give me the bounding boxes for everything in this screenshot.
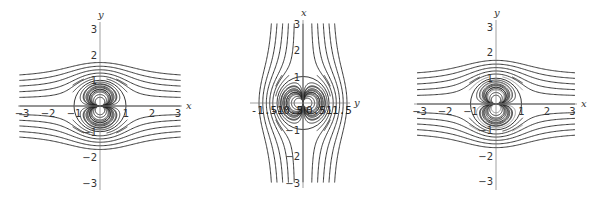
x-tick-label: 1 bbox=[123, 108, 129, 119]
y-tick-label: 1 bbox=[91, 75, 97, 86]
y-tick-label: −1 bbox=[82, 127, 97, 138]
x-tick-label: −1 bbox=[67, 108, 82, 119]
x-tick-label: 2 bbox=[544, 106, 550, 117]
streamline-plots: xy−3−2−1123321−1−2−3 yx-1.5-1-0.50.511.5… bbox=[0, 0, 596, 200]
horizontal-axis-label: x bbox=[186, 100, 192, 111]
x-tick-label: 2 bbox=[149, 108, 155, 119]
y-tick-label: 3 bbox=[487, 22, 493, 33]
x-tick-label: 0.5 bbox=[306, 104, 326, 117]
vertical-axis-label: y bbox=[493, 7, 500, 18]
x-tick-label: −3 bbox=[412, 106, 427, 117]
horizontal-axis-label: y bbox=[353, 97, 360, 108]
x-tick-label: 3 bbox=[569, 106, 575, 117]
y-tick-label: −3 bbox=[82, 178, 97, 189]
x-tick-label: -0.5 bbox=[277, 104, 304, 117]
y-tick-label: −2 bbox=[478, 151, 493, 162]
y-tick-label: 2 bbox=[294, 45, 300, 56]
y-tick-label: −1 bbox=[285, 125, 300, 136]
x-tick-label: −1 bbox=[463, 106, 478, 117]
y-tick-label: −2 bbox=[82, 152, 97, 163]
y-tick-label: 3 bbox=[91, 24, 97, 35]
vertical-axis-label: x bbox=[301, 7, 307, 18]
y-tick-label: −3 bbox=[478, 176, 493, 187]
x-tick-label: 1 bbox=[518, 106, 524, 117]
y-tick-label: 2 bbox=[487, 47, 493, 58]
y-tick-label: 2 bbox=[91, 50, 97, 61]
horizontal-axis-label: x bbox=[581, 98, 587, 109]
x-tick-label: −3 bbox=[15, 108, 30, 119]
x-tick-label: −2 bbox=[438, 106, 453, 117]
streamline-plot-2-swapped: yx-1.5-1-0.50.511.5321−1−2−3 bbox=[250, 7, 360, 190]
streamline-plot-3: xy−3−2−1123321−1−2−3 bbox=[412, 7, 587, 190]
y-tick-label: −2 bbox=[285, 151, 300, 162]
x-tick-label: 1.5 bbox=[332, 104, 352, 117]
vertical-axis-label: y bbox=[97, 9, 104, 20]
y-tick-label: 1 bbox=[294, 72, 300, 83]
y-tick-label: −3 bbox=[285, 178, 300, 189]
y-tick-label: −1 bbox=[478, 125, 493, 136]
streamline-plot-1: xy−3−2−1123321−1−2−3 bbox=[14, 9, 192, 190]
x-tick-label: 3 bbox=[175, 108, 181, 119]
x-tick-label: −2 bbox=[41, 108, 56, 119]
y-tick-label: 3 bbox=[294, 19, 300, 30]
y-tick-label: 1 bbox=[487, 73, 493, 84]
